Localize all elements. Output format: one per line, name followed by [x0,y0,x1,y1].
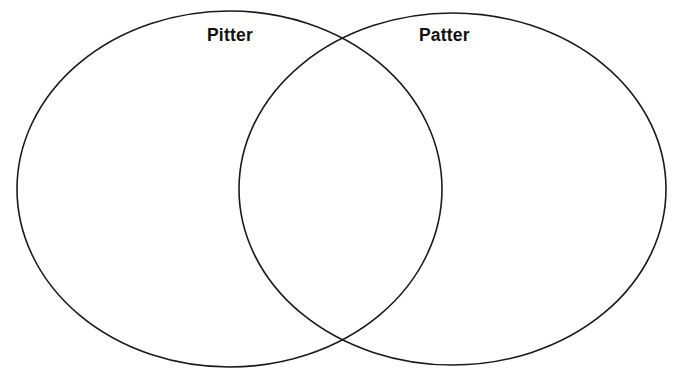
venn-diagram: Pitter Patter [0,0,684,382]
venn-shapes [0,0,684,382]
venn-label-left: Pitter [207,27,253,45]
diagram-background [0,0,684,382]
venn-label-right: Patter [419,27,470,45]
